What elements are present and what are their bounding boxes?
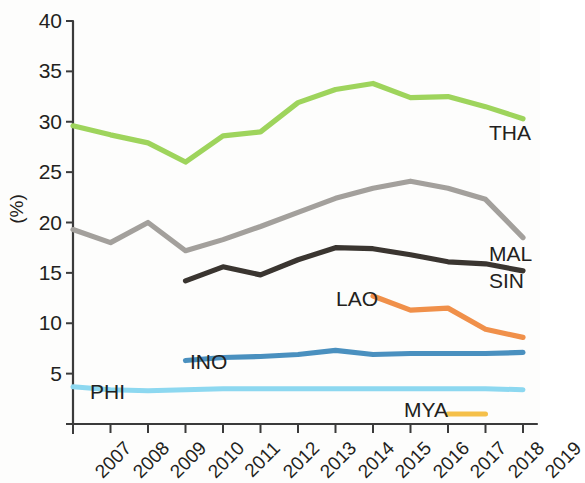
x-tick-label: 2019	[541, 438, 584, 481]
series-line-phi	[73, 387, 523, 391]
series-label-mal: MAL	[489, 243, 532, 264]
series-line-tha	[73, 83, 523, 162]
y-tick-label: 5	[20, 363, 62, 384]
y-tick-label: 40	[20, 10, 62, 31]
series-label-sin: SIN	[489, 270, 524, 291]
y-tick-label: 30	[20, 111, 62, 132]
y-tick-label: 15	[20, 262, 62, 283]
series-label-tha: THA	[489, 122, 531, 143]
series-line-mal	[73, 181, 523, 251]
y-tick-label: 35	[20, 60, 62, 81]
y-tick-label: 10	[20, 312, 62, 333]
series-line-ino	[186, 350, 524, 360]
series-label-ino: INO	[190, 351, 227, 372]
series-line-sin	[186, 248, 524, 281]
series-line-lao	[373, 296, 523, 337]
axis-lines	[67, 21, 537, 424]
series-label-mya: MYA	[404, 399, 448, 420]
series-lines	[73, 83, 523, 413]
y-tick-label: 25	[20, 161, 62, 182]
series-label-phi: PHI	[90, 381, 125, 402]
series-label-lao: LAO	[336, 288, 378, 309]
y-tick-label: 20	[20, 212, 62, 233]
